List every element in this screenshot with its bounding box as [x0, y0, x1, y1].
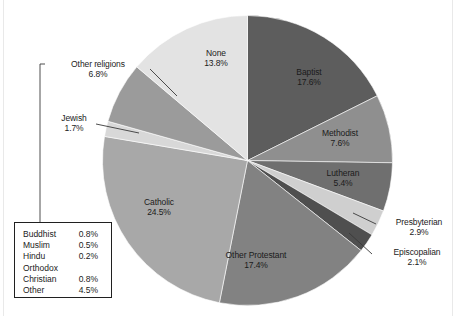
slice-label-lutheran: Lutheran 5.4%: [310, 168, 376, 188]
breakdown-row-percent: 0.2%: [69, 251, 107, 262]
slice-label-presbyterian: Presbyterian 2.9%: [379, 217, 459, 237]
slice-label-baptist-name: Baptist: [276, 67, 342, 77]
slice-label-presbyterian-name: Presbyterian: [379, 217, 459, 227]
slice-label-baptist-percent: 17.6%: [276, 77, 342, 87]
slice-label-jewish-percent: 1.7%: [48, 123, 100, 133]
breakdown-row: Orthodox: [23, 263, 107, 274]
breakdown-row-label: Christian: [23, 274, 69, 285]
breakdown-row-label: Buddhist: [23, 229, 69, 240]
slice-label-other-religions-name: Other religions: [46, 59, 150, 69]
breakdown-row-percent: 0.5%: [69, 240, 107, 251]
slice-label-other-protestant-percent: 17.4%: [200, 260, 312, 270]
slice-label-episcopalian: Episcopalian 2.1%: [375, 247, 459, 267]
breakdown-row: Other4.5%: [23, 285, 107, 296]
other-religions-breakdown-box: Buddhist0.8%Muslim0.5%Hindu0.2%OrthodoxC…: [14, 222, 112, 298]
breakdown-row-percent: 0.8%: [69, 274, 107, 285]
breakdown-row-label: Orthodox: [23, 263, 69, 274]
breakdown-row: Hindu0.2%: [23, 251, 107, 262]
slice-label-other-protestant-name: Other Protestant: [200, 250, 312, 260]
breakdown-row-label: Hindu: [23, 251, 69, 262]
slice-label-episcopalian-percent: 2.1%: [375, 257, 459, 267]
slice-label-none-percent: 13.8%: [183, 58, 249, 68]
breakdown-row-label: Other: [23, 285, 69, 296]
slice-label-jewish: Jewish 1.7%: [48, 113, 100, 133]
slice-label-jewish-name: Jewish: [48, 113, 100, 123]
breakdown-row-percent: 0.8%: [69, 229, 107, 240]
breakdown-row: Buddhist0.8%: [23, 229, 107, 240]
slice-label-catholic-percent: 24.5%: [126, 207, 192, 217]
slice-label-lutheran-percent: 5.4%: [310, 178, 376, 188]
slice-label-catholic-name: Catholic: [126, 197, 192, 207]
slice-label-methodist-percent: 7.6%: [303, 138, 377, 148]
slice-label-none: None 13.8%: [183, 48, 249, 68]
breakdown-row-label: Muslim: [23, 240, 69, 251]
breakdown-row: Muslim0.5%: [23, 240, 107, 251]
slice-label-presbyterian-percent: 2.9%: [379, 227, 459, 237]
slice-label-other-religions-percent: 6.8%: [46, 69, 150, 79]
breakdown-table: Buddhist0.8%Muslim0.5%Hindu0.2%OrthodoxC…: [23, 229, 107, 296]
slice-label-baptist: Baptist 17.6%: [276, 67, 342, 87]
slice-label-methodist: Methodist 7.6%: [303, 128, 377, 148]
slice-label-other-religions: Other religions 6.8%: [46, 59, 150, 79]
slice-label-catholic: Catholic 24.5%: [126, 197, 192, 217]
slice-label-none-name: None: [183, 48, 249, 58]
slice-label-other-protestant: Other Protestant 17.4%: [200, 250, 312, 270]
slice-label-lutheran-name: Lutheran: [310, 168, 376, 178]
figure-canvas: None 13.8% Baptist 17.6% Methodist 7.6% …: [0, 0, 463, 316]
slice-label-methodist-name: Methodist: [303, 128, 377, 138]
slice-label-episcopalian-name: Episcopalian: [375, 247, 459, 257]
breakdown-row-percent: [69, 263, 107, 274]
breakdown-row-percent: 4.5%: [69, 285, 107, 296]
breakdown-row: Christian0.8%: [23, 274, 107, 285]
